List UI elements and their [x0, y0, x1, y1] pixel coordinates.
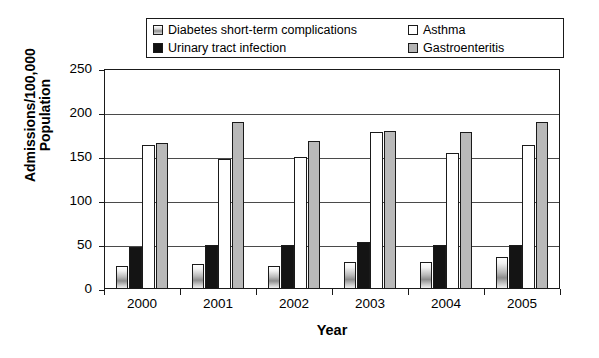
x-axis-title: Year — [104, 322, 560, 338]
legend-label-gastroenteritis: Gastroenteritis — [423, 42, 504, 55]
x-axis-label-2004: 2004 — [411, 297, 481, 311]
legend-swatch-gastroenteritis-icon — [408, 43, 418, 53]
bar-2002-gastroenteritis — [308, 141, 321, 289]
y-axis-tick-label: 0 — [40, 282, 92, 296]
bar-2005-diabetes-short-term-complications — [496, 257, 509, 289]
bar-2003-asthma — [370, 132, 383, 289]
bar-2005-gastroenteritis — [536, 122, 549, 289]
bar-2000-asthma — [142, 145, 155, 289]
chart-legend: Diabetes short-term complications Asthma… — [146, 18, 564, 58]
x-axis-tick — [408, 289, 409, 295]
bar-groups — [104, 69, 560, 289]
legend-swatch-asthma-icon — [408, 25, 418, 35]
x-axis-label-2002: 2002 — [259, 297, 329, 311]
bar-2004-asthma — [446, 153, 459, 289]
bar-2005-asthma — [522, 145, 535, 289]
bar-2001-urinary-tract-infection — [205, 245, 218, 289]
bar-2001-diabetes-short-term-complications — [192, 264, 205, 289]
bar-2001-asthma — [218, 159, 231, 289]
legend-item-diabetes-short-term-complications: Diabetes short-term complications — [153, 24, 408, 37]
bar-2003-diabetes-short-term-complications — [344, 262, 357, 289]
y-axis-tick-label: 100 — [40, 194, 92, 208]
bar-2004-diabetes-short-term-complications — [420, 262, 433, 289]
legend-label-diabetes: Diabetes short-term complications — [168, 24, 357, 37]
bar-2005-urinary-tract-infection — [509, 245, 522, 289]
x-axis-label-2005: 2005 — [487, 297, 557, 311]
x-axis-tick — [484, 289, 485, 295]
legend-item-urinary-tract-infection: Urinary tract infection — [153, 42, 408, 55]
legend-item-gastroenteritis: Gastroenteritis — [408, 42, 557, 55]
bar-2002-asthma — [294, 157, 307, 289]
legend-swatch-diabetes-icon — [153, 25, 163, 35]
x-axis-label-2001: 2001 — [183, 297, 253, 311]
legend-label-uti: Urinary tract infection — [168, 42, 286, 55]
bar-2004-gastroenteritis — [460, 132, 473, 289]
x-axis-tick — [256, 289, 257, 295]
x-axis-label-2003: 2003 — [335, 297, 405, 311]
y-axis-tick-label: 250 — [40, 62, 92, 76]
bar-2000-gastroenteritis — [156, 143, 169, 289]
legend-swatch-uti-icon — [153, 43, 163, 53]
bar-2000-diabetes-short-term-complications — [116, 266, 129, 289]
legend-label-asthma: Asthma — [423, 24, 465, 37]
bar-2001-gastroenteritis — [232, 122, 245, 289]
bar-2003-urinary-tract-infection — [357, 242, 370, 289]
bar-2000-urinary-tract-infection — [129, 247, 142, 289]
y-axis-tick-label: 50 — [40, 238, 92, 252]
bar-chart: Diabetes short-term complications Asthma… — [0, 0, 599, 358]
x-axis: 200020012002200320042005 — [104, 289, 560, 319]
y-axis-tick-label: 150 — [40, 150, 92, 164]
y-axis-tick-label: 200 — [40, 106, 92, 120]
x-axis-label-2000: 2000 — [107, 297, 177, 311]
x-axis-tick — [332, 289, 333, 295]
bar-2002-urinary-tract-infection — [281, 245, 294, 289]
x-axis-tick — [560, 289, 561, 295]
x-axis-tick — [180, 289, 181, 295]
legend-item-asthma: Asthma — [408, 24, 557, 37]
bar-2003-gastroenteritis — [384, 131, 397, 289]
bar-2004-urinary-tract-infection — [433, 245, 446, 289]
x-axis-tick — [104, 289, 105, 295]
bar-2002-diabetes-short-term-complications — [268, 266, 281, 289]
